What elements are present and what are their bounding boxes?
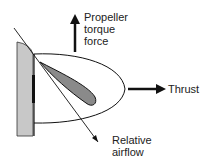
airflow-label-2: airflow — [112, 147, 144, 158]
torque-label-2: torque — [84, 24, 115, 35]
aircraft-body — [17, 42, 33, 136]
airflow-arrowhead — [92, 135, 98, 142]
propeller-force-diagram: Propeller torque force Thrust Relative a… — [0, 0, 211, 165]
thrust-label: Thrust — [168, 84, 199, 95]
airflow-label-1: Relative — [112, 135, 152, 146]
torque-label-3: force — [84, 36, 108, 47]
torque-label-1: Propeller — [84, 12, 128, 23]
blade-section — [40, 62, 96, 105]
